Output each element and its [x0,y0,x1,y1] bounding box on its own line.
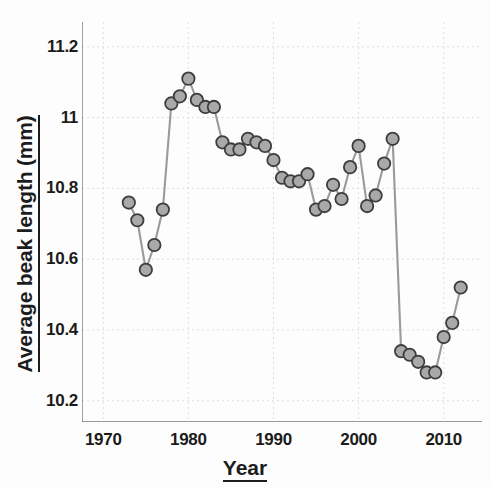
y-tick-label: 10.2 [18,391,78,411]
data-point [369,189,381,201]
data-point [378,157,390,169]
data-point [157,203,169,215]
x-axis-title: Year [0,456,490,480]
y-tick-label: 11.2 [18,37,78,57]
data-point [208,101,220,113]
data-point [174,90,186,102]
data-point [446,317,458,329]
data-point [267,154,279,166]
data-point [429,366,441,378]
x-axis-title-text: Year [223,456,267,482]
data-point [318,200,330,212]
data-point [344,161,356,173]
data-point [335,193,347,205]
data-point [148,239,160,251]
data-point [455,281,467,293]
data-point [182,72,194,84]
y-axis-tick-labels: 10.210.410.610.81111.2 [18,0,78,487]
x-tick-label: 2000 [319,430,399,450]
chart-svg [82,22,482,422]
y-tick-label: 10.6 [18,249,78,269]
x-tick-label: 1980 [148,430,228,450]
data-point [352,140,364,152]
x-tick-label: 1990 [233,430,313,450]
data-point [361,200,373,212]
data-points [123,72,467,378]
y-tick-label: 11 [18,108,78,128]
plot-area [82,22,482,422]
beak-length-chart: Average beak length (mm) 10.210.410.610.… [0,0,490,487]
data-point [438,331,450,343]
data-point [327,179,339,191]
x-tick-label: 1970 [63,430,143,450]
data-line [129,79,461,373]
x-tick-label: 2010 [404,430,484,450]
y-tick-label: 10.4 [18,320,78,340]
data-point [233,143,245,155]
data-point [140,264,152,276]
data-point [123,196,135,208]
data-point [386,133,398,145]
y-tick-label: 10.8 [18,178,78,198]
data-point [301,168,313,180]
data-point [131,214,143,226]
data-point [412,356,424,368]
data-point [259,140,271,152]
